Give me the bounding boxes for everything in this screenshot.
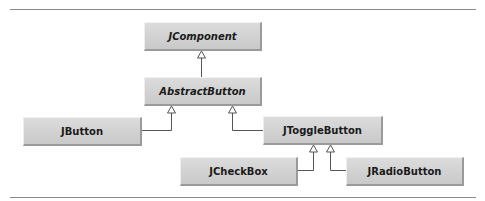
- edge-jbutton-abstractbutton: [141, 113, 172, 131]
- node-label: JCheckBox: [209, 166, 267, 177]
- edge-jtogglebutton-abstractbutton: [233, 113, 264, 131]
- node-label: JComponent: [168, 31, 236, 42]
- node-abstractbutton: AbstractButton: [144, 77, 262, 106]
- edge-jradiobutton-jtogglebutton: [331, 152, 347, 171]
- inheritance-arrow-icon: [310, 145, 318, 152]
- node-label: JRadioButton: [368, 166, 442, 177]
- node-label: JToggleButton: [283, 125, 362, 136]
- node-jradiobutton: JRadioButton: [346, 157, 464, 186]
- inheritance-arrow-icon: [168, 106, 176, 113]
- inheritance-arrow-icon: [198, 51, 206, 58]
- node-label: AbstractButton: [159, 86, 245, 97]
- node-label: JButton: [61, 126, 103, 137]
- node-jcheckbox: JCheckBox: [180, 157, 298, 186]
- node-jtogglebutton: JToggleButton: [263, 116, 383, 145]
- node-jbutton: JButton: [23, 117, 142, 146]
- edge-jcheckbox-jtogglebutton: [297, 152, 314, 171]
- inheritance-arrow-icon: [327, 145, 335, 152]
- node-jcomponent: JComponent: [144, 22, 262, 51]
- inheritance-arrow-icon: [229, 106, 237, 113]
